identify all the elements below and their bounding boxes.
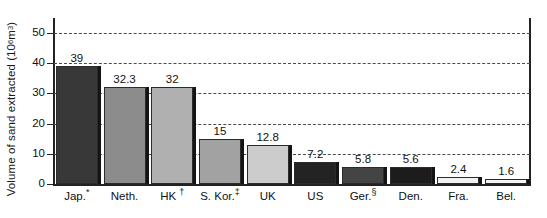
bar-value-label: 5.8 [342,153,384,165]
bar-group[interactable]: 12.8 [247,18,289,184]
bar-value-label: 2.4 [437,163,479,175]
category-label-text: UK [260,190,276,202]
category-label-text: Ger. [350,190,372,202]
bar-value-label: 39 [56,52,98,64]
category-label-text: Den. [399,190,423,202]
category-label-text: Fra. [448,190,468,202]
bar-value-label: 7.2 [294,148,336,160]
y-axis-tick-mark [47,184,54,185]
bar[interactable] [104,87,146,184]
bar[interactable] [56,66,98,184]
bar-group[interactable]: 5.8 [342,18,384,184]
category-label-footnote-marker: † [179,187,184,197]
bar[interactable] [151,87,193,184]
bar[interactable] [294,162,336,184]
bar-value-label: 32.3 [104,73,146,85]
y-axis-tick-label: 20 [5,117,45,129]
bar-value-label: 15 [199,125,241,137]
x-axis-category-label: Bel. [471,190,541,202]
category-label-text: S. Kor. [200,190,235,202]
y-axis-tick-label: 30 [5,86,45,98]
category-label-text: Bel. [496,190,516,202]
bar-group[interactable]: 2.4 [437,18,479,184]
category-label-text: Neth. [111,190,139,202]
bar-group[interactable]: 39 [56,18,98,184]
x-axis-line [53,184,531,186]
bar-value-label: 5.6 [390,153,432,165]
category-label-text: HK [160,190,179,202]
bar[interactable] [437,177,479,184]
bar-chart: Volume of sand extracted (106 m3) 010203… [0,0,547,218]
bar-group[interactable]: 32 [151,18,193,184]
y-axis-tick-label: 40 [5,56,45,68]
y-axis-title-close: ) [5,22,17,26]
bar-group[interactable]: 5.6 [390,18,432,184]
bar[interactable] [390,167,432,184]
bar-value-label: 12.8 [247,131,289,143]
bar[interactable] [485,179,527,184]
y-axis-tick-label: 10 [5,147,45,159]
plot-area: 3932.3321512.87.25.85.62.41.6 [53,18,530,184]
bar[interactable] [199,139,241,184]
y-axis-tick-label: 0 [5,177,45,189]
category-label-text: Jap. [64,190,86,202]
bar[interactable] [342,167,384,185]
bar-value-label: 1.6 [485,165,527,177]
bar-group[interactable]: 32.3 [104,18,146,184]
bar-group[interactable]: 1.6 [485,18,527,184]
category-label-text: US [307,190,323,202]
bar-group[interactable]: 15 [199,18,241,184]
bar-group[interactable]: 7.2 [294,18,336,184]
bar[interactable] [247,145,289,184]
bar-value-label: 32 [151,73,193,85]
y-axis-tick-label: 50 [5,26,45,38]
